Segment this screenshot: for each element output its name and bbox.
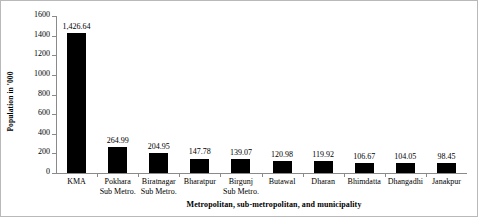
x-tick-mark	[97, 173, 98, 177]
bar	[190, 159, 209, 174]
y-tick-mark	[52, 134, 57, 135]
plot-area: 02004006008001000120014001600 1,426.6426…	[56, 16, 467, 173]
y-tick-label: 800	[16, 89, 50, 98]
bar	[149, 153, 168, 173]
bar-value-label: 139.07	[230, 148, 252, 157]
y-tick-mark	[52, 55, 57, 56]
category-label-line2: Sub Metro.	[100, 187, 136, 197]
y-tick-mark	[52, 173, 57, 174]
bar-value-label: 147.78	[189, 147, 211, 156]
x-axis-title-text: Metropolitan, sub-metropolitan, and muni…	[117, 200, 362, 209]
category-label-line1: Biratnagar	[142, 177, 176, 186]
category-label: Dharan	[311, 177, 335, 187]
category-label-line2: Sub Metro.	[223, 187, 259, 197]
y-tick-label: 1000	[16, 69, 50, 78]
y-tick-label: 600	[16, 108, 50, 117]
y-tick-label: 400	[16, 128, 50, 137]
category-label: Dhangadhi	[388, 177, 423, 187]
bar-chart-figure: Population in '000 020040060080010001200…	[0, 0, 478, 217]
category-label-line1: Pokhara	[105, 177, 131, 186]
category-label-line1: Birgunj	[229, 177, 253, 186]
category-label: KMA	[67, 177, 86, 187]
y-axis-title-text: Population in '000	[6, 71, 15, 131]
category-label: Bharatpur	[184, 177, 216, 187]
y-tick-label: 1400	[16, 30, 50, 39]
bar-value-label: 264.99	[107, 136, 129, 145]
x-axis-title: Metropolitan, sub-metropolitan, and muni…	[1, 200, 477, 209]
category-label: BirgunjSub Metro.	[223, 177, 259, 196]
x-tick-mark	[179, 173, 180, 177]
y-tick-label: 1600	[16, 10, 50, 19]
bar-value-label: 104.05	[394, 152, 416, 161]
y-axis-title: Population in '000	[3, 41, 17, 161]
category-label: Butawal	[269, 177, 296, 187]
x-tick-mark	[385, 173, 386, 177]
category-label-line1: Bharatpur	[184, 177, 216, 186]
bar	[273, 161, 292, 173]
y-tick-mark	[52, 16, 57, 17]
bar	[437, 163, 456, 173]
category-label: BiratnagarSub Metro.	[141, 177, 177, 196]
bar	[231, 159, 250, 173]
y-tick-label: 0	[16, 167, 50, 176]
x-tick-mark	[344, 173, 345, 177]
category-label-line2: Sub Metro.	[141, 187, 177, 197]
bar-value-label: 98.45	[437, 152, 455, 161]
bar	[355, 163, 374, 173]
x-tick-mark	[426, 173, 427, 177]
bar	[314, 161, 333, 173]
bar	[67, 33, 86, 173]
category-label-line1: Dhangadhi	[388, 177, 423, 186]
x-tick-mark	[138, 173, 139, 177]
y-tick-mark	[52, 114, 57, 115]
bar-value-label: 1,426.64	[63, 22, 91, 31]
category-label-line1: Janakpur	[432, 177, 461, 186]
x-tick-mark	[262, 173, 263, 177]
bar	[108, 147, 127, 173]
y-tick-label: 1200	[16, 49, 50, 58]
bar-value-label: 106.67	[353, 152, 375, 161]
y-tick-mark	[52, 36, 57, 37]
bar-value-label: 119.92	[312, 150, 334, 159]
category-label-line1: KMA	[67, 177, 86, 186]
y-tick-label: 200	[16, 147, 50, 156]
bar-value-label: 120.98	[271, 150, 293, 159]
x-tick-mark	[220, 173, 221, 177]
bar-value-label: 204.95	[148, 142, 170, 151]
x-tick-mark	[303, 173, 304, 177]
category-label-line1: Butawal	[269, 177, 296, 186]
category-label-line1: Dharan	[311, 177, 335, 186]
y-tick-mark	[52, 153, 57, 154]
category-label: Janakpur	[432, 177, 461, 187]
y-tick-mark	[52, 95, 57, 96]
category-label-line1: Bhimdatta	[348, 177, 381, 186]
y-tick-mark	[52, 75, 57, 76]
category-label: Bhimdatta	[348, 177, 381, 187]
bar	[396, 163, 415, 173]
category-label: PokharaSub Metro.	[100, 177, 136, 196]
